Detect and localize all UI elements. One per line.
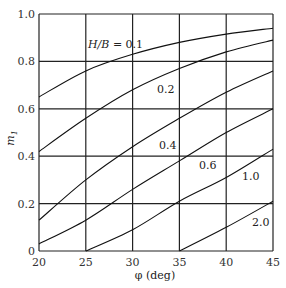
curve-hb-0.2: [39, 40, 273, 151]
curve-label-2.0: 2.0: [252, 216, 270, 229]
x-tick-label: 35: [172, 256, 186, 269]
y-tick-label: 0.4: [18, 150, 36, 163]
curve-label-1.0: 1.0: [242, 170, 260, 183]
x-tick-label: 25: [79, 256, 93, 269]
y-tick-label: 0.6: [18, 103, 36, 116]
y-tick-label: 1.0: [18, 8, 36, 21]
x-tick-label: 45: [266, 256, 280, 269]
y-axis-ticks: 00.20.40.60.81.0: [18, 8, 36, 258]
y-axis-label-main: m1: [4, 130, 19, 146]
curve-label-0.6: 0.6: [199, 159, 217, 172]
curve-label-0.4: 0.4: [159, 139, 177, 152]
curve-hb-0.6: [39, 109, 273, 244]
x-axis-ticks: 202530354045: [32, 256, 280, 269]
y-axis-label: m1: [4, 130, 19, 146]
x-tick-label: 20: [32, 256, 46, 269]
curve-label-0.1: H/B = 0.1: [87, 38, 143, 51]
curve-label-0.2: 0.2: [157, 83, 175, 96]
x-tick-label: 30: [126, 256, 140, 269]
x-tick-label: 40: [219, 256, 233, 269]
chart: 00.20.40.60.81.0 202530354045 H/B = 0.10…: [0, 0, 286, 288]
x-axis-label: φ (deg): [135, 269, 175, 282]
y-tick-label: 0.2: [18, 198, 36, 211]
y-tick-label: 0.8: [18, 55, 36, 68]
curve-hb-0.4: [39, 71, 273, 220]
curve-labels: H/B = 0.10.20.40.61.02.0: [87, 38, 270, 229]
